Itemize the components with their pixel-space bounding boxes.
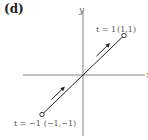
panel-label: (d) [4, 2, 24, 16]
x-axis-label: x [146, 70, 148, 80]
start-point [40, 112, 44, 116]
start-point-label: t = −1(−1,−1) [14, 119, 76, 128]
direction-arrow-shaft [97, 44, 109, 56]
direction-arrow-shaft [51, 88, 63, 100]
parametric-diagram: (d) x y t = 1(1,1) t = −1(−1,−1) [0, 0, 148, 140]
end-point-label: t = 1(1,1) [96, 25, 136, 34]
y-axis-label: y [78, 5, 85, 15]
